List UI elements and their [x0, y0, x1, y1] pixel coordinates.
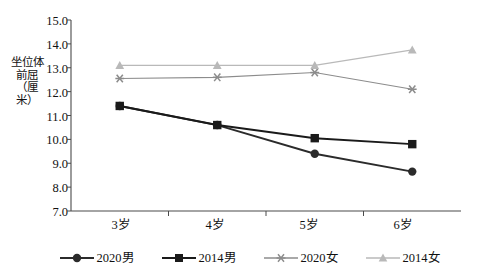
legend-item-2020-male[interactable]: 2020男 [59, 251, 135, 265]
legend-symbol-square-icon [161, 251, 197, 265]
series-2020女 [115, 69, 416, 93]
series-2020男 [116, 102, 417, 176]
legend-label-2014-female: 2014女 [403, 252, 441, 265]
chart-legend: 2020男 2014男 2020女 [0, 247, 499, 269]
chart-figure: 坐位体前屈（厘米） 15.0 14.0 13.0 12.0 11.0 10.0 … [0, 0, 499, 273]
series-line-2014女 [120, 50, 413, 66]
y-axis-ticks [67, 20, 71, 211]
legend-symbol-circle-icon [59, 251, 95, 265]
plot-area [0, 0, 499, 273]
legend-label-2020-male: 2020男 [97, 252, 135, 265]
x-axis-ticks [169, 211, 364, 216]
legend-item-2014-female[interactable]: 2014女 [365, 251, 441, 265]
series-line-2020男 [120, 106, 413, 172]
series-2014女 [115, 45, 416, 69]
legend-item-2014-male[interactable]: 2014男 [161, 251, 237, 265]
legend-symbol-asterisk-icon [263, 251, 299, 265]
axes [67, 20, 461, 216]
legend-label-2014-male: 2014男 [199, 252, 237, 265]
series-2014男 [116, 102, 417, 149]
data-series-layer [115, 45, 416, 175]
legend-label-2020-female: 2020女 [301, 252, 339, 265]
legend-symbol-triangle-icon [365, 251, 401, 265]
series-line-2020女 [120, 73, 413, 90]
legend-item-2020-female[interactable]: 2020女 [263, 251, 339, 265]
